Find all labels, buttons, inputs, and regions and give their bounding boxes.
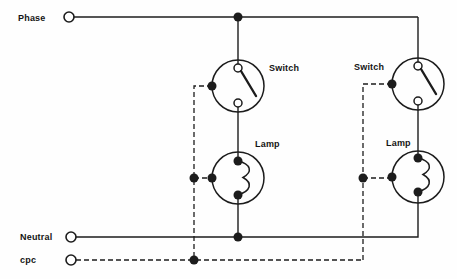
lamp-left-top-dot	[234, 157, 243, 166]
cpc-branch-left	[190, 86, 213, 260]
phase-conductor: Phase	[18, 12, 418, 64]
switch-left: Switch	[208, 60, 300, 112]
switch-right-earth-dot	[388, 80, 397, 89]
lamp-right-label: Lamp	[386, 138, 411, 148]
lamp-right-bottom-dot	[414, 188, 423, 197]
neutral-wire	[76, 192, 418, 237]
lamp-left-earth-dot	[208, 174, 217, 183]
lamp-left-label: Lamp	[255, 139, 280, 149]
switch-right-bottom-contact	[414, 97, 422, 105]
lamp-right-top-dot	[414, 154, 423, 163]
cpc-branch-left-riser	[194, 86, 212, 260]
lamp-right: Lamp	[386, 138, 444, 203]
cpc-branch-right	[359, 84, 393, 260]
switch-right-label: Switch	[354, 62, 384, 72]
phase-junction-dot	[234, 13, 243, 22]
lamp-left-filament	[238, 161, 249, 195]
phase-label: Phase	[18, 13, 46, 23]
wiring-diagram-canvas: Phase Neutral cpc	[0, 0, 457, 279]
cpc-conductor: cpc	[20, 255, 363, 265]
lamp-left: Lamp	[208, 139, 281, 204]
cpc-branch-left-junction-dot	[190, 174, 199, 183]
cpc-branch-right-junction-dot	[359, 174, 368, 183]
switch-right-blade	[421, 69, 436, 94]
switch-left-bottom-contact	[234, 99, 242, 107]
switch-left-earth-dot	[208, 82, 217, 91]
phase-terminal	[64, 12, 74, 22]
switch-left-label: Switch	[269, 63, 299, 73]
switch-left-blade	[241, 71, 256, 96]
neutral-conductor: Neutral	[20, 192, 418, 242]
cpc-terminal	[66, 255, 76, 265]
cpc-label: cpc	[20, 255, 36, 265]
lamp-right-earth-dot	[388, 173, 397, 182]
cpc-branch-right-riser	[363, 84, 392, 260]
neutral-terminal	[66, 232, 76, 242]
neutral-label: Neutral	[20, 232, 52, 242]
wiring-diagram: Phase Neutral cpc	[0, 0, 457, 279]
lamp-right-filament	[418, 158, 429, 192]
